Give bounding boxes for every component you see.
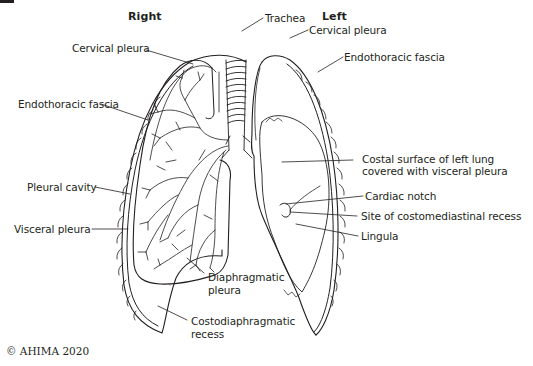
label-costomediastinal-recess: Site of costomediastinal recess <box>361 210 521 222</box>
costal-surface-oval <box>260 116 329 292</box>
label-costal-surface-1: Costal surface of left lung <box>362 153 494 165</box>
label-endothoracic-fascia-left: Endothoracic fascia <box>344 51 445 63</box>
heading-right: Right <box>128 10 162 23</box>
copyright-text: © AHIMA 2020 <box>6 345 89 357</box>
left-rib-bumps <box>296 70 345 306</box>
label-diaphragmatic-pleura-2: pleura <box>208 284 241 296</box>
label-pleural-cavity: Pleural cavity <box>27 181 97 193</box>
trachea-shape <box>222 60 252 158</box>
label-cervical-pleura-right: Cervical pleura <box>72 42 150 54</box>
right-parietal-inner <box>127 66 193 326</box>
left-parietal-outer <box>262 56 338 335</box>
label-costodiaphragmatic-recess-1: Costodiaphragmatic <box>191 315 295 327</box>
label-visceral-pleura: Visceral pleura <box>14 223 91 235</box>
label-endothoracic-fascia-right: Endothoracic fascia <box>18 98 119 110</box>
label-trachea: Trachea <box>265 12 305 24</box>
heading-left: Left <box>322 10 347 23</box>
right-rib-bumps <box>117 97 160 320</box>
left-parietal-inner <box>287 64 333 332</box>
label-costodiaphragmatic-recess-2: recess <box>191 328 224 340</box>
label-diaphragmatic-pleura-1: Diaphragmatic <box>208 271 284 283</box>
label-lingula: Lingula <box>361 230 398 242</box>
label-cardiac-notch: Cardiac notch <box>365 190 436 202</box>
right-bronchial-tree <box>138 70 228 285</box>
label-cervical-pleura-left: Cervical pleura <box>309 24 387 36</box>
label-costal-surface-2: covered with visceral pleura <box>362 165 508 177</box>
left-lung-outline <box>252 62 317 335</box>
cardiac-notch-shape <box>280 203 290 217</box>
